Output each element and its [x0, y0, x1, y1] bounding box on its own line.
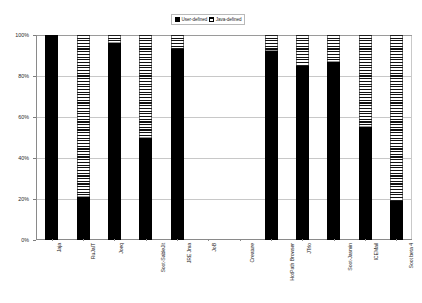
y-tick-label: 60% [5, 114, 29, 120]
bar-segment-user-defined[interactable] [77, 197, 90, 240]
bar-slot [171, 35, 184, 240]
x-axis-labels: JajaRuJaITJoeqSoot-SableJitJRE JmaJoBCre… [36, 241, 412, 303]
bar-soot-jasmin[interactable] [327, 35, 340, 240]
legend-entry-user-defined: User-defined [174, 17, 208, 22]
bar-slot [327, 35, 340, 240]
legend-label-java-defined: Java-defined [216, 17, 242, 22]
bar-slot [108, 35, 121, 240]
bar-jtrlo[interactable] [296, 35, 309, 240]
x-tick-label: Soot beta 4 [409, 243, 415, 268]
bar-jaja[interactable] [45, 35, 58, 240]
bar-segment-java-defined[interactable] [265, 35, 278, 51]
bar-segment-java-defined[interactable] [108, 35, 121, 43]
y-tick-label: 20% [5, 196, 29, 202]
bar-slot [359, 35, 372, 240]
bar-segment-user-defined[interactable] [390, 201, 403, 240]
bar-segment-user-defined[interactable] [45, 35, 58, 240]
bar-segment-user-defined[interactable] [327, 62, 340, 240]
x-label-slot: Soot beta 4 [366, 241, 422, 303]
bar-segment-user-defined[interactable] [359, 127, 372, 240]
legend-label-user-defined: User-defined [182, 17, 208, 22]
y-tick-label: 40% [5, 155, 29, 161]
y-tick-label: 80% [5, 73, 29, 79]
bar-segment-user-defined[interactable] [296, 66, 309, 240]
bar-segment-java-defined[interactable] [390, 35, 403, 201]
bar-slot [390, 35, 403, 240]
bar-slot [77, 35, 90, 240]
bar-segment-user-defined[interactable] [108, 43, 121, 240]
bar-slot [265, 35, 278, 240]
bar-segment-java-defined[interactable] [77, 35, 90, 197]
bar-hotpath-browser[interactable] [265, 35, 278, 240]
bar-segment-java-defined[interactable] [327, 35, 340, 62]
bar-segment-java-defined[interactable] [296, 35, 309, 66]
bar-slot [296, 35, 309, 240]
bar-icemail[interactable] [359, 35, 372, 240]
bar-jre-jma[interactable] [171, 35, 184, 240]
bars-layer [36, 35, 412, 240]
chart-legend: User-defined Java-defined [171, 14, 245, 25]
bar-segment-java-defined[interactable] [359, 35, 372, 127]
bar-soot-sablejit[interactable] [139, 35, 152, 240]
legend-swatch-user-defined-icon [175, 17, 180, 22]
bar-slot [139, 35, 152, 240]
bar-slot [45, 35, 58, 240]
bar-joeq[interactable] [108, 35, 121, 240]
bar-segment-java-defined[interactable] [139, 35, 152, 138]
legend-entry-java-defined: Java-defined [208, 17, 242, 22]
stacked-bar-chart: User-defined Java-defined 0%20%40%60%80%… [0, 0, 422, 303]
bar-rujait[interactable] [77, 35, 90, 240]
y-tick-label: 100% [5, 32, 29, 38]
x-tick-mark [396, 239, 397, 241]
bar-segment-user-defined[interactable] [139, 138, 152, 241]
bar-segment-user-defined[interactable] [265, 51, 278, 240]
bar-soot-beta-4[interactable] [390, 35, 403, 240]
legend-swatch-java-defined-icon [209, 17, 214, 22]
bar-segment-user-defined[interactable] [171, 49, 184, 240]
bar-segment-java-defined[interactable] [171, 35, 184, 49]
